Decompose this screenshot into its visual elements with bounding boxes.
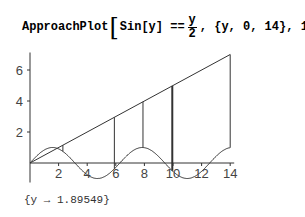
- x-tick-label: 12: [194, 166, 208, 181]
- half-y-line: [30, 55, 230, 164]
- y-tick-label: 4: [16, 94, 23, 109]
- x-tick-label: 8: [141, 166, 148, 181]
- y-tick-label: 6: [16, 63, 23, 78]
- x-tick-label: 6: [112, 166, 119, 181]
- result-output: {y → 1.89549}: [24, 194, 110, 206]
- approach-plot: 2468101214246: [0, 0, 305, 217]
- x-tick-label: 2: [55, 166, 62, 181]
- y-tick-label: 2: [16, 125, 23, 140]
- x-tick-label: 4: [84, 166, 91, 181]
- x-tick-label: 14: [223, 166, 237, 181]
- x-tick-label: 10: [166, 166, 180, 181]
